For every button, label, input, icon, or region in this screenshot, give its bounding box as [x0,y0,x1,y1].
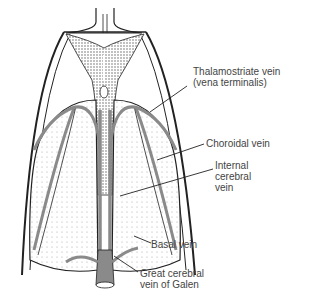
label-line: Great cerebral [140,268,204,279]
label-internal-cerebral-vein: Internal cerebral vein [215,160,251,193]
label-line: Internal [215,160,251,171]
label-line: Thalamostriate vein [193,66,280,77]
label-line: vein of Galen [140,279,204,290]
label-line: vein [215,182,251,193]
label-line: cerebral [215,171,251,182]
label-line: Choroidal vein [206,138,270,149]
label-thalamostriate-vein: Thalamostriate vein (vena terminalis) [193,66,280,88]
thalamus-left [30,100,98,271]
label-line: Basal vein [151,239,197,250]
label-basal-vein: Basal vein [151,239,197,250]
label-choroidal-vein: Choroidal vein [206,138,270,149]
label-great-cerebral-vein: Great cerebral vein of Galen [140,268,204,290]
label-line: (vena terminalis) [193,77,280,88]
superior-stub [66,8,142,33]
